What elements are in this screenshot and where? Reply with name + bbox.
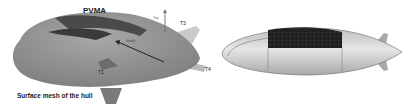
left-panel-hull-mesh: PVMA Top South T1 T3 T4 Surface mesh of … (0, 0, 210, 109)
t1-label: T1 (98, 69, 104, 75)
right-panel-airship-side-view (210, 0, 419, 109)
t3-label: T3 (180, 20, 186, 26)
south-axis-label: South (126, 39, 135, 43)
airship-side-illustration (210, 0, 419, 109)
figure-title-pvma: PVMA (83, 6, 106, 15)
top-axis-label: Top (153, 16, 159, 20)
hull-mesh-caption: Surface mesh of the hull (17, 92, 93, 99)
